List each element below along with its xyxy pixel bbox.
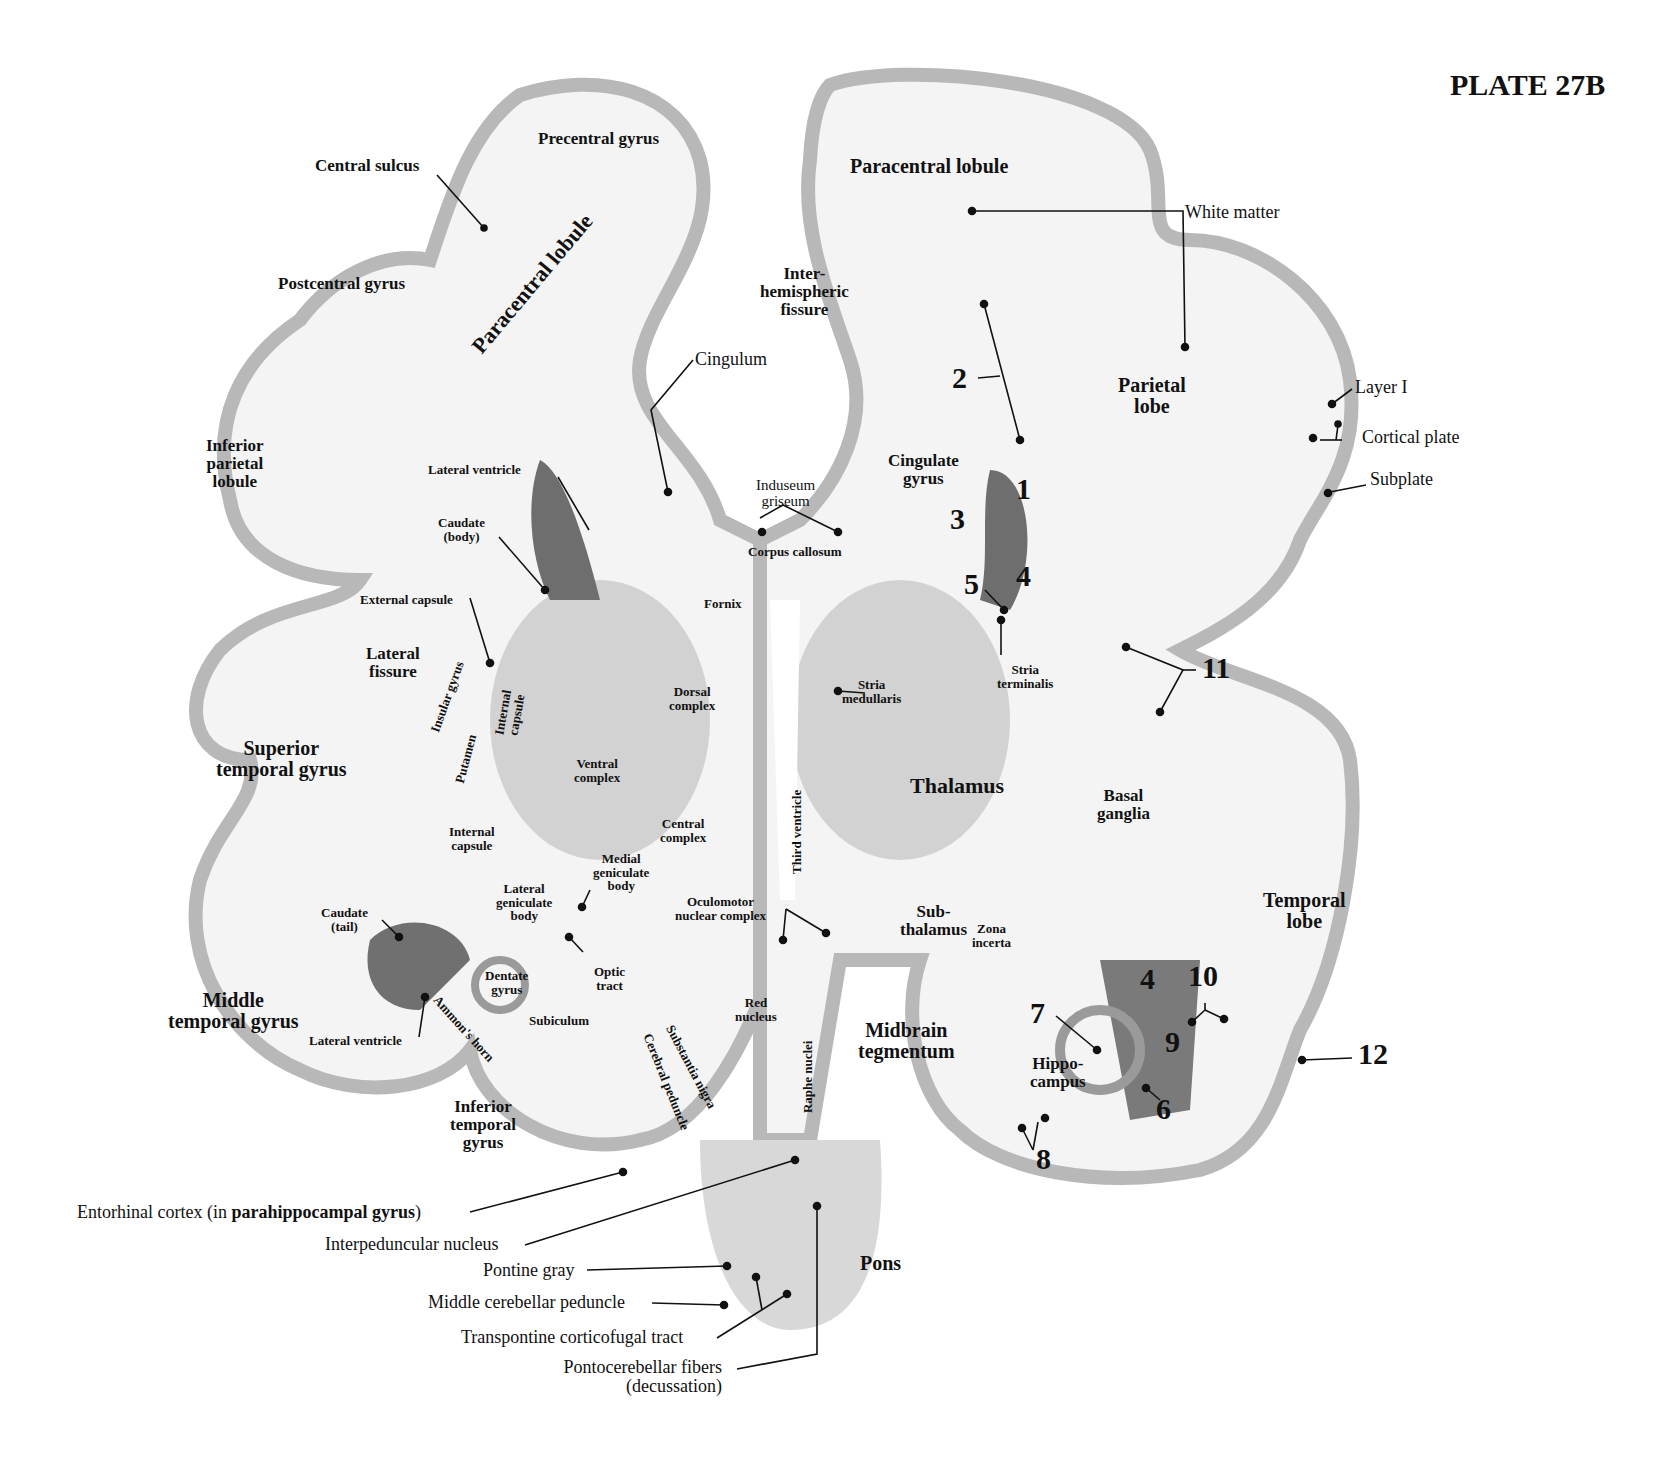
callout-number-4-upper: 4 xyxy=(1016,560,1031,592)
label-induseum-griseum: Induseum griseum xyxy=(756,478,815,510)
callout-number-1: 1 xyxy=(1016,473,1031,505)
label-entorhinal-cortex: Entorhinal cortex (in parahippocampal gy… xyxy=(77,1203,421,1222)
plate-title: PLATE 27B xyxy=(1450,68,1605,102)
callout-number-3: 3 xyxy=(950,503,965,535)
brain-coronal-section-figure: PLATE 27B Central sulcus Precentral gyru… xyxy=(0,0,1669,1469)
label-pontine-gray: Pontine gray xyxy=(483,1261,575,1280)
label-middle-cerebellar-peduncle: Middle cerebellar peduncle xyxy=(428,1293,625,1312)
label-lateral-ventricle-bottom: Lateral ventricle xyxy=(309,1034,402,1048)
label-subthalamus: Sub- thalamus xyxy=(900,903,967,939)
label-corpus-callosum: Corpus callosum xyxy=(748,545,842,559)
label-medial-geniculate-body: Medial geniculate body xyxy=(593,852,649,893)
label-postcentral-gyrus: Postcentral gyrus xyxy=(278,275,405,293)
callout-number-9: 9 xyxy=(1165,1026,1180,1058)
label-red-nucleus: Red nucleus xyxy=(735,996,777,1023)
label-caudate-tail: Caudate (tail) xyxy=(321,906,368,933)
callout-number-12: 12 xyxy=(1358,1038,1388,1070)
callout-number-7: 7 xyxy=(1030,997,1045,1029)
label-precentral-gyrus: Precentral gyrus xyxy=(538,130,659,148)
callout-number-5: 5 xyxy=(964,568,979,600)
label-parietal-lobe: Parietal lobe xyxy=(1118,375,1186,417)
label-hippocampus: Hippo- campus xyxy=(1030,1055,1086,1091)
callout-number-6: 6 xyxy=(1156,1093,1171,1125)
label-zona-incerta: Zona incerta xyxy=(972,922,1011,949)
label-inferior-temporal-gyrus: Inferior temporal gyrus xyxy=(450,1098,516,1152)
label-lateral-ventricle-top: Lateral ventricle xyxy=(428,463,521,477)
label-caudate-body: Caudate (body) xyxy=(438,516,485,543)
label-lateral-fissure: Lateral fissure xyxy=(366,645,420,681)
label-third-ventricle: Third ventricle xyxy=(790,790,804,874)
callout-number-8: 8 xyxy=(1036,1143,1051,1175)
label-subplate: Subplate xyxy=(1370,470,1433,489)
label-stria-terminalis: Stria terminalis xyxy=(997,663,1053,690)
label-raphe-nuclei: Raphe nuclei xyxy=(801,1041,815,1114)
label-optic-tract: Optic tract xyxy=(594,965,625,992)
label-temporal-lobe: Temporal lobe xyxy=(1263,890,1346,932)
label-layer-i: Layer I xyxy=(1355,378,1407,397)
label-white-matter: White matter xyxy=(1185,203,1279,222)
label-stria-medullaris: Stria medullaris xyxy=(842,678,901,705)
label-internal-capsule: Internal capsule xyxy=(449,825,495,852)
label-paracentral-lobule-right: Paracentral lobule xyxy=(850,156,1008,177)
label-basal-ganglia: Basal ganglia xyxy=(1097,787,1150,823)
callout-number-11: 11 xyxy=(1202,652,1230,684)
label-thalamus: Thalamus xyxy=(910,774,1004,797)
label-middle-temporal-gyrus: Middle temporal gyrus xyxy=(168,990,299,1032)
label-transpontine-corticofugal-tract: Transpontine corticofugal tract xyxy=(461,1328,683,1347)
brain-section-illustration xyxy=(0,0,1669,1469)
label-lateral-geniculate-body: Lateral geniculate body xyxy=(496,882,552,923)
label-cortical-plate: Cortical plate xyxy=(1362,428,1459,447)
label-pontocerebellar-fibers: Pontocerebellar fibers (decussation) xyxy=(556,1358,722,1396)
label-ventral-complex: Ventral complex xyxy=(574,757,620,784)
callout-number-10: 10 xyxy=(1188,960,1218,992)
label-superior-temporal-gyrus: Superior temporal gyrus xyxy=(216,738,347,780)
label-external-capsule: External capsule xyxy=(360,593,453,607)
label-dentate-gyrus: Dentate gyrus xyxy=(485,969,528,996)
label-pons: Pons xyxy=(860,1253,901,1274)
label-subiculum: Subiculum xyxy=(529,1014,589,1028)
label-central-sulcus: Central sulcus xyxy=(315,157,419,175)
label-cingulum: Cingulum xyxy=(695,350,767,369)
callout-number-2: 2 xyxy=(952,362,967,394)
label-midbrain-tegmentum: Midbrain tegmentum xyxy=(858,1020,955,1062)
label-central-complex: Central complex xyxy=(660,817,706,844)
label-oculomotor-nuclear-complex: Oculomotor nuclear complex xyxy=(675,895,766,922)
label-cingulate-gyrus: Cingulate gyrus xyxy=(888,452,959,488)
label-interpeduncular-nucleus: Interpeduncular nucleus xyxy=(325,1235,498,1254)
label-interhemispheric-fissure: Inter- hemispheric fissure xyxy=(760,265,849,319)
label-inferior-parietal-lobule: Inferior parietal lobule xyxy=(206,437,264,491)
label-dorsal-complex: Dorsal complex xyxy=(669,685,715,712)
label-fornix: Fornix xyxy=(704,597,742,611)
callout-number-4-lower: 4 xyxy=(1140,963,1155,995)
